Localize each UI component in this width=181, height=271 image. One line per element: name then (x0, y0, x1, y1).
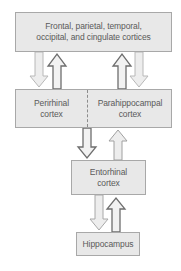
parahippocampal-label-line1: Parahippocampal (88, 98, 172, 109)
cortices-node: Frontal, parietal, temporal, occipital, … (15, 12, 172, 52)
cortices-label-line1: Frontal, parietal, temporal, (16, 21, 171, 32)
perirhinal-label-line2: cortex (16, 109, 87, 120)
parahippocampal-node: Parahippocampal cortex (88, 98, 172, 120)
arrow-entorhinal-to-hippocampus (90, 195, 108, 230)
arrow-cortices-to-perirhinal (30, 52, 48, 87)
hippocampus-node: Hippocampus (76, 232, 140, 256)
arrow-cortices-to-parahippocampal (130, 52, 148, 87)
parahippocampal-label-line2: cortex (88, 109, 172, 120)
perirhinal-parahippocampal-node: Perirhinal cortex Parahippocampal cortex (15, 89, 172, 128)
perirhinal-node: Perirhinal cortex (16, 98, 87, 120)
arrow-perirhinal-to-entorhinal (78, 128, 96, 158)
entorhinal-label-line2: cortex (72, 178, 145, 189)
arrow-perirhinal-to-cortices (48, 54, 66, 89)
arrow-entorhinal-to-parahippocampal (109, 130, 127, 160)
entorhinal-node: Entorhinal cortex (71, 160, 146, 195)
perirhinal-label-line1: Perirhinal (16, 98, 87, 109)
hippocampus-label: Hippocampus (77, 239, 139, 250)
arrow-parahippocampal-to-cortices (113, 54, 131, 89)
arrow-hippocampus-to-entorhinal (107, 198, 125, 232)
cortices-label-line2: occipital, and cingulate cortices (16, 32, 171, 43)
entorhinal-label-line1: Entorhinal (72, 167, 145, 178)
